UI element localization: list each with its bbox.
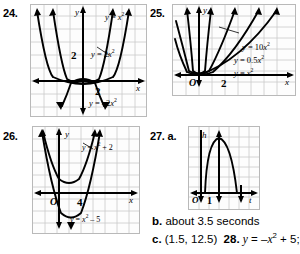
axis-label-h-27: h [202,130,207,140]
origin-label-25: O [189,77,196,88]
curve-label-25-y-eq-05x2: y = 0.5x2 [234,56,264,65]
origin-label-27: O [192,195,199,205]
curve-label-24-y-eq-neg2x2: y = –2x2 [89,99,117,108]
axis-label-t-27: t [249,195,252,205]
exercise-number-25: 25. [150,8,165,19]
axis-label-x-25: x [284,77,289,87]
origin-label-26: O [50,196,57,207]
tick-label-x-25: 2 [221,77,227,89]
axis-label-y-25: y [202,5,207,15]
answer-line-b: b. about 3.5 seconds [152,216,259,228]
tick-label-t-27: 1 [207,195,212,206]
answer-key-page: 24. [0,0,300,254]
tick-label-y-24: 2 [71,49,77,61]
answer-line-c: c. (1.5, 12.5) 28. y = –x2 + 5; [152,234,300,246]
curve-label-24-y-eq-x2: y = x2 [105,13,125,22]
curve-label-25-y-eq-x2: y = x2 [234,69,254,78]
axis-label-x-24: x [135,83,140,93]
curve-label-24-y-eq-2x2: y = 2x2 [91,50,115,59]
tick-label-x-24: 2 [95,85,101,97]
curve-label-26-y-eq-x2-plus-2: y = x2 + 2 [82,144,113,152]
graph-25: y x O 2 [172,4,296,96]
exercise-number-24: 24. [3,8,18,19]
graph-27-svg: h t O 1 [189,127,259,209]
parabola-height-27 [205,138,237,193]
tick-label-x-26: 4 [77,196,83,208]
axis-label-y-26: y [64,129,69,139]
graph-25-svg: y x O 2 [173,5,295,95]
axis-label-x-26: x [128,195,133,205]
exercise-number-26: 26. [3,131,18,142]
exercise-number-27: 27. a. [150,131,176,142]
graph-27: h t O 1 [188,126,260,210]
curve-label-25-y-eq-10x2: y = 10x2 [242,43,270,52]
axis-label-y-24: y [74,7,79,17]
curve-label-26-y-eq-x2-minus-5: y = x2 – 5 [70,216,100,224]
